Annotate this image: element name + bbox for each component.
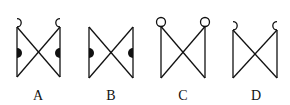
half-disc-icon	[55, 48, 60, 58]
figure-c[interactable]	[157, 18, 210, 79]
figure-a[interactable]	[17, 19, 60, 77]
hook-icon	[17, 19, 21, 27]
figure-label: B	[106, 88, 115, 103]
figure-label: A	[33, 88, 44, 103]
figure-label: D	[251, 88, 261, 103]
figure-label: C	[178, 88, 187, 103]
figure-d[interactable]	[233, 22, 277, 78]
half-disc-icon	[17, 48, 22, 58]
options-diagram: A B C D	[0, 0, 290, 105]
hook-icon	[273, 22, 277, 30]
figure-b[interactable]	[89, 27, 133, 78]
hook-icon	[56, 19, 60, 27]
half-disc-icon	[128, 48, 133, 58]
circle-icon	[157, 18, 166, 27]
circle-icon	[201, 18, 210, 27]
hook-icon	[233, 22, 237, 30]
half-disc-icon	[89, 48, 94, 58]
